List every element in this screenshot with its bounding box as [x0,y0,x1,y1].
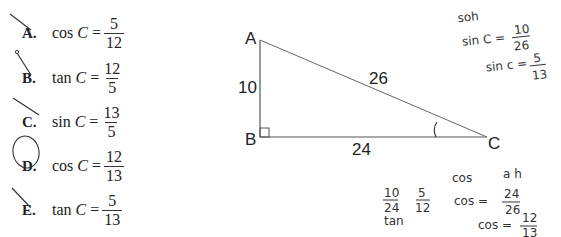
equals-sign: = [89,113,98,131]
trig-function: tan [52,201,72,219]
choice-letter: C. [14,114,52,131]
denominator: 12 [104,33,124,52]
numerator: 12 [102,60,122,78]
choice-expression: cos C = 1213 [52,148,124,185]
side-length-bc: 24 [352,140,371,159]
denominator: 5 [105,122,117,141]
angle-variable: C [76,201,87,219]
numerator: 12 [104,148,124,166]
equals-sign: = [92,157,101,175]
handwritten-note: tan [384,214,404,228]
choice-e[interactable]: E. tan C = 513 [14,187,122,233]
fraction: 512 [104,15,124,52]
trig-function: cos [52,24,73,42]
choice-expression: tan C = 513 [52,192,122,229]
handwritten-note: a h [503,167,522,181]
handwritten-note: 10 [513,22,530,38]
angle-c-arc [434,122,437,137]
fraction: 125 [102,60,122,97]
trig-function: sin [52,113,71,131]
vertex-label-a: A [245,29,257,48]
handwritten-note: 13 [522,226,537,237]
handwritten-note: 26 [513,38,530,54]
handwritten-note: cos = [478,218,512,232]
handwritten-note: 12 [415,201,430,215]
vertex-label-c: C [488,134,500,153]
choice-a[interactable]: A. cos C = 512 [14,10,124,56]
handwritten-note: cos [452,171,472,185]
handwritten-work-tan: 10 24 tan 5 12 [383,186,430,228]
numerator: 5 [106,192,118,210]
handwritten-note: 5 [418,186,426,200]
angle-variable: C [77,157,88,175]
handwritten-note: 10 [384,186,399,200]
numerator: 5 [108,15,120,33]
choice-c[interactable]: C. sin C = 135 [14,99,121,145]
angle-variable: C [76,69,87,87]
handwritten-note: 24 [384,201,399,215]
handwritten-note: 12 [522,211,537,225]
equals-sign: = [90,201,99,219]
trig-function: tan [52,69,72,87]
angle-variable: C [75,113,86,131]
vertex-label-b: B [245,130,256,149]
fraction: 1213 [104,148,124,185]
choice-letter: B. [14,70,52,87]
fraction: 135 [101,104,121,141]
handwritten-note: 26 [505,203,520,217]
equals-sign: = [90,69,99,87]
angle-variable: C [77,24,88,42]
handwritten-note: soh [457,9,480,25]
fraction: 513 [102,192,122,229]
denominator: 13 [104,166,124,185]
handwritten-note: 13 [531,67,548,83]
numerator: 13 [101,104,121,122]
handwritten-fraction-bar [530,64,546,66]
right-triangle-diagram: A B C 10 26 24 [238,29,500,159]
choice-letter: E. [14,202,52,219]
handwritten-note: 5 [532,51,541,66]
handwritten-note: cos = [454,194,488,208]
side-ac [260,40,487,137]
side-length-ac: 26 [369,69,388,88]
choice-b[interactable]: B. tan C = 125 [14,55,122,101]
denominator: 13 [102,210,122,229]
choice-d[interactable]: D. cos C = 1213 [14,143,124,189]
handwritten-note: sin C = [461,30,505,48]
choice-expression: sin C = 135 [52,104,121,141]
choice-letter: D. [14,158,52,175]
handwritten-fraction-bar [512,36,530,38]
handwritten-note: 24 [504,187,519,201]
choice-expression: cos C = 512 [52,15,124,52]
handwritten-note: sin c = [485,56,528,74]
handwritten-work-sin: soh sin C = 10 26 sin c = 5 13 [457,3,548,90]
choice-letter: A. [14,25,52,42]
denominator: 5 [106,78,118,97]
side-length-ab: 10 [238,78,257,97]
equals-sign: = [92,24,101,42]
right-angle-marker [260,128,269,137]
trig-function: cos [52,157,73,175]
handwritten-work-cos: cos a h cos = 24 26 cos = 12 13 [452,167,537,237]
choice-expression: tan C = 125 [52,60,122,97]
